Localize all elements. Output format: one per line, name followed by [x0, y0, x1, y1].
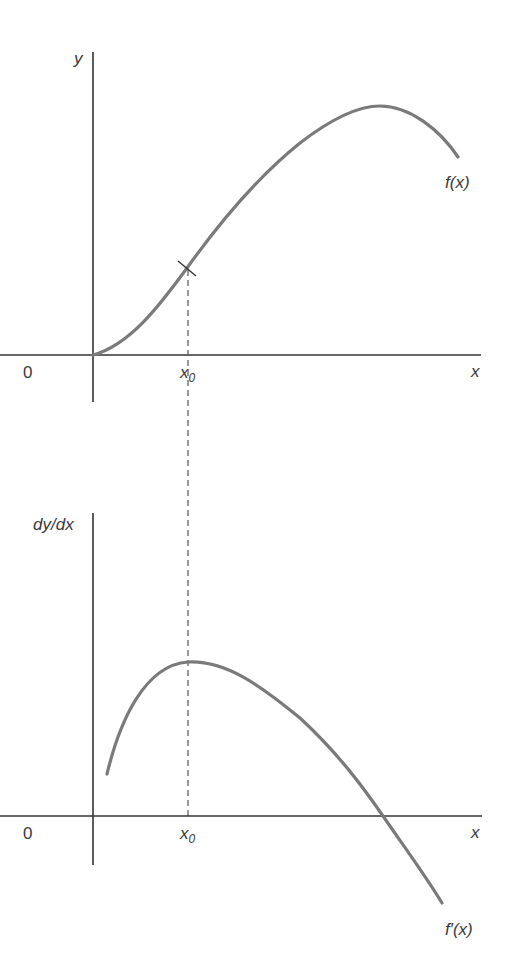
top-origin-label: 0 — [23, 363, 32, 382]
f-prime-curve — [107, 662, 442, 903]
top-y-axis-label: y — [73, 49, 84, 68]
top-x-axis-label: x — [470, 362, 480, 381]
top-x0-label: x0 — [179, 363, 196, 385]
tangent-tick-mark — [178, 261, 196, 276]
f-curve — [93, 106, 458, 355]
bottom-graph: dy/dx x 0 x0 f′(x) — [0, 513, 482, 939]
f-curve-label: f(x) — [445, 173, 470, 192]
bottom-y-axis-label: dy/dx — [33, 515, 74, 534]
f-prime-curve-label: f′(x) — [445, 920, 473, 939]
bottom-x-axis-label: x — [470, 823, 480, 842]
derivative-diagram: y x 0 x0 f(x) dy/dx x 0 x0 f′(x) — [0, 0, 511, 970]
bottom-origin-label: 0 — [23, 824, 32, 843]
top-graph: y x 0 x0 f(x) — [0, 49, 481, 402]
bottom-x0-label: x0 — [179, 824, 196, 846]
